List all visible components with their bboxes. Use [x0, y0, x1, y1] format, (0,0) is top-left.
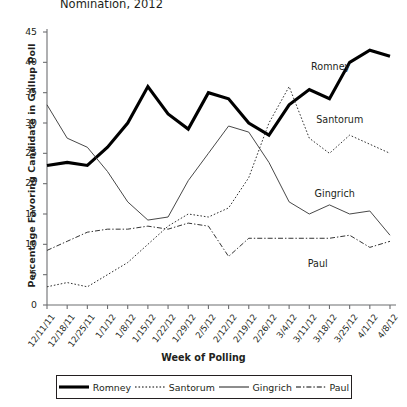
legend-entry-paul: Paul — [296, 382, 350, 393]
chart-legend: RomneySantorumGingrichPaul — [56, 375, 352, 399]
series-line-paul — [47, 223, 390, 256]
legend-entry-gingrich: Gingrich — [219, 382, 292, 393]
legend-label: Romney — [93, 382, 131, 393]
legend-entry-romney: Romney — [59, 382, 131, 393]
legend-label: Gingrich — [253, 382, 292, 393]
series-label-gingrich: Gingrich — [315, 188, 355, 199]
legend-label: Santorum — [169, 382, 215, 393]
series-label-santorum: Santorum — [316, 114, 363, 125]
legend-swatch-santorum — [135, 382, 165, 392]
legend-entry-santorum: Santorum — [135, 382, 215, 393]
legend-swatch-romney — [59, 382, 89, 392]
x-axis-title: Week of Polling — [0, 352, 407, 363]
legend-swatch-gingrich — [219, 382, 249, 392]
legend-label: Paul — [330, 382, 350, 393]
chart-figure: Nomination, 2012 Percentage Favoring Can… — [0, 0, 407, 407]
series-label-romney: Romney — [311, 61, 350, 72]
series-label-paul: Paul — [308, 258, 328, 269]
legend-swatch-paul — [296, 382, 326, 392]
